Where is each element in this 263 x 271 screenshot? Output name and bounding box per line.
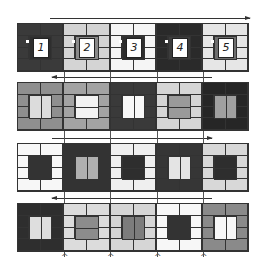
frame-segment [87,59,110,71]
frame-segment [203,179,226,191]
frame-segment [64,228,75,239]
frame-segment [226,118,248,130]
frame-segment [157,168,168,179]
frame-segment [41,179,63,191]
frame-segment [64,179,87,191]
frame-segment [52,36,63,48]
tile-18 [110,203,157,252]
frame-segment [226,179,248,191]
connector-line [157,72,158,82]
tile-center [29,156,52,180]
frame-segment [134,118,156,130]
frame-segment [191,36,202,48]
frame-segment [111,83,134,95]
tile-row-3 [17,143,248,192]
frame-segment [64,168,75,179]
frame-segment [237,107,248,118]
frame-segment [157,228,168,239]
frame-segment [64,24,87,36]
frame-segment [18,144,41,156]
connector-line [203,252,204,257]
connector-line [203,131,204,143]
frame-segment [111,48,122,59]
frame-segment [41,59,63,71]
connector-line [157,192,158,203]
tile-3: 3 [110,23,157,72]
frame-segment [99,48,110,59]
frame-segment [18,228,29,239]
frame-segment [41,83,63,95]
frame-segment [18,48,29,59]
frame-segment [134,144,156,156]
frame-segment [191,156,202,168]
frame-segment [180,144,202,156]
frame-segment [64,48,75,59]
frame-segment [203,204,226,216]
tile-6 [17,82,64,131]
frame-segment [41,24,63,36]
frame-segment [145,228,156,239]
frame-segment [191,216,202,228]
frame-segment [41,144,63,156]
frame-segment [18,83,41,95]
connector-line [64,252,65,257]
frame-segment [157,204,180,216]
tile-13 [110,143,157,192]
tile-number-label: 1 [33,38,49,58]
frame-segment [111,228,122,239]
frame-segment [203,24,226,36]
tile-center [214,95,237,119]
tile-10 [202,82,249,131]
frame-segment [191,107,202,118]
tile-center [122,95,145,119]
frame-segment [87,118,110,130]
frame-segment [203,95,214,107]
frame-segment [111,168,122,179]
frame-segment [134,83,156,95]
tile-center [122,216,145,240]
frame-segment [157,179,180,191]
frame-segment [203,59,226,71]
frame-segment [191,48,202,59]
frame-segment [237,228,248,239]
frame-segment [203,48,214,59]
frame-segment [111,118,134,130]
connector-line [110,252,111,257]
frame-segment [87,144,110,156]
connector-line [110,192,111,203]
frame-segment [191,95,202,107]
frame-segment [52,107,63,118]
connector-line [64,131,65,143]
frame-segment [237,36,248,48]
frame-segment [18,24,41,36]
frame-segment [145,48,156,59]
connector-line [157,131,158,143]
frame-segment [145,95,156,107]
tile-center [75,216,99,240]
frame-segment [64,59,87,71]
tile-row-1: 12345 [17,23,248,72]
frame-segment [157,216,168,228]
tile-17 [63,203,111,252]
frame-segment [157,48,168,59]
frame-segment [111,95,122,107]
connector-line [203,72,204,82]
tile-center [75,95,99,119]
frame-segment [157,59,180,71]
frame-segment [237,216,248,228]
tile-1: 1 [17,23,64,72]
frame-segment [18,204,41,216]
tile-center [168,216,191,240]
frame-segment [18,239,41,251]
frame-segment [180,118,202,130]
arrow-left-icon [51,196,57,200]
frame-segment [87,239,110,251]
frame-segment [237,156,248,168]
marker-dot-icon [72,40,75,43]
frame-segment [180,204,202,216]
tile-center [214,216,237,240]
tile-11 [17,143,64,192]
frame-segment [41,204,63,216]
tile-9 [156,82,203,131]
arrow-right-icon [207,136,213,140]
